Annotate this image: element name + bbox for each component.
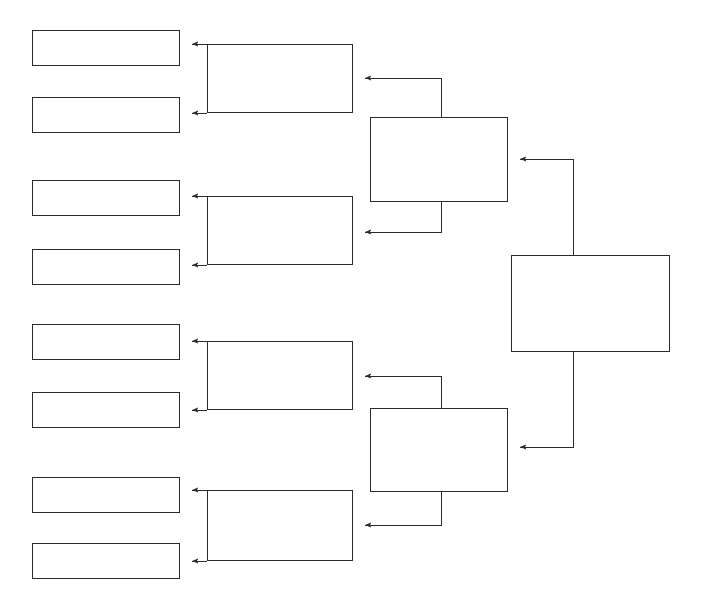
bracket-slot-r1s8[interactable] (32, 543, 180, 579)
bracket-slot-r4s1[interactable] (511, 255, 670, 352)
bracket-slot-r2s2[interactable] (207, 196, 353, 265)
tournament-bracket-diagram (0, 0, 702, 611)
bracket-slot-r2s4[interactable] (207, 490, 353, 561)
connector-r2s3 (192, 341, 207, 410)
bracket-slot-r1s2[interactable] (32, 97, 180, 133)
bracket-slot-r2s1[interactable] (207, 44, 353, 113)
bracket-slot-r1s6[interactable] (32, 392, 180, 428)
bracket-slot-r1s5[interactable] (32, 324, 180, 360)
bracket-slot-r1s7[interactable] (32, 477, 180, 513)
bracket-slot-r1s4[interactable] (32, 249, 180, 285)
bracket-slot-r3s1[interactable] (370, 117, 508, 202)
connector-r2s4 (192, 490, 207, 561)
connector-r2s2 (192, 196, 207, 265)
bracket-slot-r3s2[interactable] (370, 408, 508, 492)
bracket-slot-r2s3[interactable] (207, 341, 353, 410)
bracket-slot-r1s1[interactable] (32, 30, 180, 66)
connector-r2s1 (192, 44, 207, 113)
bracket-slot-r1s3[interactable] (32, 180, 180, 216)
